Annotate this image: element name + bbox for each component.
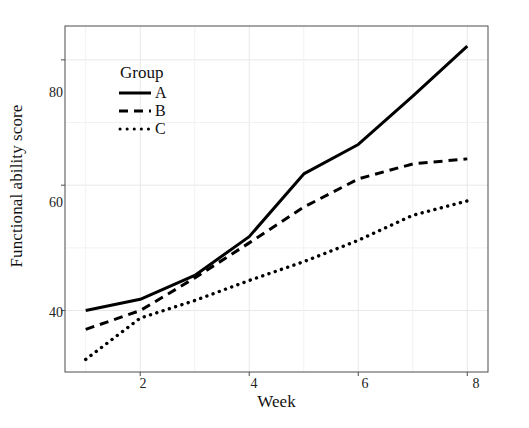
legend-label-a: A: [155, 85, 167, 101]
legend-item-a[interactable]: A: [118, 84, 167, 101]
legend-item-c[interactable]: C: [118, 120, 167, 137]
legend-key-dashed-icon: [118, 104, 152, 118]
plot-area: [0, 0, 529, 428]
x-tick-label-2: 2: [140, 376, 147, 392]
x-tick-label-8: 8: [473, 376, 480, 392]
legend-item-b[interactable]: B: [118, 102, 167, 119]
line-chart: Functional ability score 80 60 40 2 4 6 …: [0, 0, 529, 428]
y-axis-label-wrap: Functional ability score: [0, 0, 34, 372]
legend-key-dotted-icon: [118, 122, 152, 136]
legend-label-b: B: [155, 103, 166, 119]
y-axis-tick-labels: 80 60 40: [33, 0, 63, 372]
x-tick-label-4: 4: [251, 376, 258, 392]
series-line-b: [86, 159, 468, 330]
y-tick-label-40: 40: [37, 305, 63, 321]
x-tick-label-6: 6: [362, 376, 369, 392]
legend-key-solid-icon: [118, 86, 152, 100]
x-axis-label: Week: [65, 392, 488, 412]
legend-label-c: C: [155, 121, 166, 137]
legend: Group A B C: [118, 63, 167, 138]
y-tick-label-80: 80: [37, 85, 63, 101]
legend-title: Group: [118, 63, 167, 83]
y-axis-label: Functional ability score: [7, 105, 27, 268]
y-tick-label-60: 60: [37, 195, 63, 211]
